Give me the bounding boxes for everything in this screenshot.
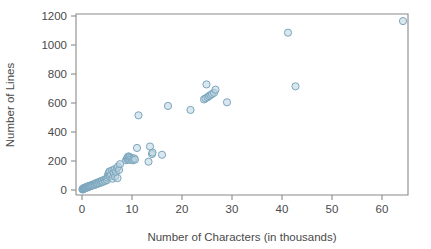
- x-tick-label: 20: [176, 203, 189, 215]
- data-point: [284, 29, 291, 36]
- y-tick-label: 800: [48, 68, 67, 80]
- x-tick-label: 50: [326, 203, 339, 215]
- y-axis-title: Number of Lines: [4, 63, 16, 148]
- data-point: [164, 102, 171, 109]
- data-point-group: [79, 17, 407, 193]
- data-point: [212, 86, 219, 93]
- x-axis-ticks: 0102030405060: [79, 195, 389, 215]
- data-point: [135, 112, 142, 119]
- y-axis-ticks: 020040060080010001200: [41, 10, 76, 196]
- data-point: [158, 151, 165, 158]
- x-axis-title: Number of Characters (in thousands): [147, 231, 336, 243]
- y-tick-label: 400: [48, 126, 67, 138]
- y-tick-label: 1200: [41, 10, 67, 22]
- data-point: [149, 149, 156, 156]
- scatter-plot-figure: 020040060080010001200 0102030405060 Numb…: [0, 0, 431, 249]
- data-point: [133, 144, 140, 151]
- y-tick-label: 200: [48, 155, 67, 167]
- y-tick-label: 1000: [41, 39, 67, 51]
- data-point: [223, 99, 230, 106]
- data-point: [292, 83, 299, 90]
- data-point: [131, 156, 138, 163]
- data-point: [145, 158, 152, 165]
- x-tick-label: 30: [226, 203, 239, 215]
- data-point: [399, 17, 406, 24]
- x-tick-label: 40: [276, 203, 289, 215]
- data-point: [114, 175, 121, 182]
- x-tick-label: 10: [126, 203, 139, 215]
- x-tick-label: 60: [376, 203, 389, 215]
- data-point: [203, 81, 210, 88]
- y-tick-label: 0: [61, 184, 67, 196]
- chart-canvas: 020040060080010001200 0102030405060 Numb…: [0, 0, 431, 249]
- data-point: [187, 106, 194, 113]
- plot-frame: [76, 14, 408, 195]
- x-tick-label: 0: [79, 203, 85, 215]
- plot-border: [76, 14, 408, 195]
- y-tick-label: 600: [48, 97, 67, 109]
